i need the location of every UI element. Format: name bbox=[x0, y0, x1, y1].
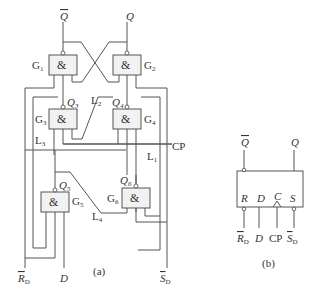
cp-label: CP bbox=[172, 140, 185, 152]
d-input-label-b: D bbox=[254, 232, 263, 244]
inverter-bubble-icon bbox=[125, 51, 129, 55]
g5-mid-input bbox=[25, 212, 55, 258]
rd-wire-to-g1 bbox=[25, 75, 54, 268]
l2-label: L2 bbox=[91, 94, 102, 108]
inverter-bubble-icon bbox=[292, 207, 296, 211]
pin-r-label: R bbox=[240, 192, 248, 204]
q-output-label-b: Q bbox=[291, 136, 299, 148]
gate-g5-symbol: & bbox=[49, 195, 59, 209]
g6-right-input bbox=[145, 208, 160, 216]
l1-label: L1 bbox=[147, 150, 158, 164]
q4-label: Q4 bbox=[112, 96, 124, 110]
gate-g2-symbol: & bbox=[121, 58, 131, 72]
gate-g3-label: G3 bbox=[35, 113, 47, 127]
rd-input-label-b: RD bbox=[236, 232, 249, 246]
sd-input-label: SD bbox=[160, 272, 171, 286]
gate-g1-label: G1 bbox=[32, 59, 44, 73]
d-input-label: D bbox=[59, 272, 68, 284]
figure-a-circuit: & G1 & G2 & G3 Q3 & G4 Q4 L2 bbox=[17, 10, 185, 286]
d-flip-flop-diagram: & G1 & G2 & G3 Q3 & G4 Q4 L2 bbox=[0, 0, 320, 286]
qbar-output-label: Q bbox=[60, 10, 68, 22]
gate-g5-label: G5 bbox=[72, 195, 84, 209]
gate-g4-label: G4 bbox=[144, 113, 156, 127]
figure-b-symbol: Q Q R D C S RD D CP SD (b) bbox=[236, 136, 303, 270]
caption-b: (b) bbox=[262, 257, 275, 270]
pin-s-label: S bbox=[290, 192, 296, 204]
inverter-bubble-icon bbox=[134, 184, 138, 188]
q6-label: Q6 bbox=[120, 174, 132, 188]
gate-g3-symbol: & bbox=[57, 112, 67, 126]
gate-g6-label: G6 bbox=[107, 192, 119, 206]
gate-g1-symbol: & bbox=[57, 58, 67, 72]
inverter-bubble-icon bbox=[125, 105, 129, 109]
inverter-bubble-icon bbox=[242, 168, 246, 172]
inverter-bubble-icon bbox=[242, 207, 246, 211]
l3-label: L3 bbox=[35, 134, 46, 148]
g6-mid-input bbox=[136, 208, 167, 222]
inverter-bubble-icon bbox=[61, 105, 65, 109]
gate-g4-symbol: & bbox=[121, 112, 131, 126]
gate-g2-label: G2 bbox=[144, 59, 156, 73]
cp-input-label-b: CP bbox=[269, 232, 282, 244]
gate-g6-symbol: & bbox=[130, 191, 140, 205]
pin-c-label: C bbox=[274, 190, 282, 202]
sd-wire-to-g2 bbox=[136, 75, 167, 268]
pin-d-label: D bbox=[256, 192, 265, 204]
sd-input-label-b: SD bbox=[287, 232, 298, 246]
rd-input-label: RD bbox=[17, 272, 30, 286]
q-output-label: Q bbox=[126, 10, 134, 22]
q3-label: Q3 bbox=[67, 96, 79, 110]
g5-left-input bbox=[33, 212, 46, 248]
inverter-bubble-icon bbox=[61, 51, 65, 55]
inverter-bubble-icon bbox=[53, 188, 57, 192]
q5-label: Q5 bbox=[59, 179, 71, 193]
g6-left-input bbox=[113, 208, 127, 213]
caption-a: (a) bbox=[93, 265, 106, 278]
qbar-output-label-b: Q bbox=[241, 136, 249, 148]
l4-label: L4 bbox=[92, 210, 103, 224]
